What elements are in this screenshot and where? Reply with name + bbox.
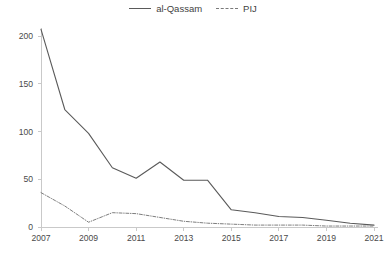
y-tick-label: 150 xyxy=(0,79,33,89)
plot-canvas xyxy=(0,0,386,262)
x-tick-label: 2015 xyxy=(211,233,251,243)
y-tick-label: 0 xyxy=(0,222,33,232)
line-chart: al-Qassam PIJ 050100150200 2007200920112… xyxy=(0,0,386,262)
y-tick-label: 50 xyxy=(0,174,33,184)
y-tick-label: 100 xyxy=(0,127,33,137)
series-line-al-qassam xyxy=(41,29,374,225)
x-tick-label: 2017 xyxy=(259,233,299,243)
series-line-pij xyxy=(41,193,374,226)
x-tick-label: 2009 xyxy=(69,233,109,243)
x-tick-label: 2007 xyxy=(21,233,61,243)
x-tick-label: 2019 xyxy=(306,233,346,243)
axes-group xyxy=(38,28,379,231)
x-tick-label: 2021 xyxy=(354,233,386,243)
plot-area: 050100150200 200720092011201320152017201… xyxy=(0,0,386,262)
y-tick-label: 200 xyxy=(0,31,33,41)
x-tick-label: 2013 xyxy=(164,233,204,243)
x-tick-label: 2011 xyxy=(116,233,156,243)
